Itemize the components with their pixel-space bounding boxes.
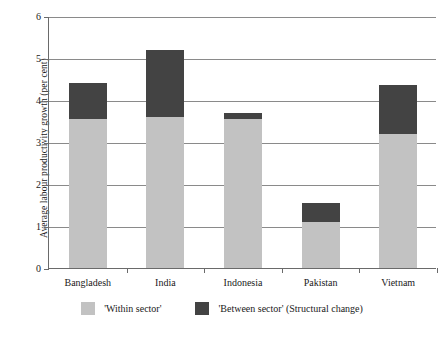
bar-segment-between-sector[interactable]: [379, 85, 417, 133]
y-axis-tick-label: 3: [36, 138, 41, 148]
x-axis-tick-mark: [282, 268, 283, 273]
bar-group[interactable]: [359, 17, 437, 268]
bar-group[interactable]: [282, 17, 360, 268]
legend-item-label: 'Within sector': [104, 304, 161, 314]
chart-container: Average labour productivity growth (per …: [0, 0, 444, 340]
legend-swatch-within-sector: [81, 302, 95, 315]
y-axis-tick-label: 5: [36, 54, 41, 64]
bar-segment-within-sector[interactable]: [146, 117, 184, 268]
bar-segment-between-sector[interactable]: [146, 50, 184, 117]
bar-group[interactable]: [204, 17, 282, 268]
bar-segment-between-sector[interactable]: [224, 113, 262, 119]
bar-segment-within-sector[interactable]: [224, 119, 262, 268]
legend-item[interactable]: 'Within sector': [81, 302, 161, 315]
stacked-bar[interactable]: [69, 83, 107, 268]
bar-group[interactable]: [127, 17, 205, 268]
x-axis-tick-label: Bangladesh: [64, 277, 111, 288]
bar-segment-within-sector[interactable]: [302, 222, 340, 268]
y-axis-tick-label: 0: [36, 264, 41, 274]
stacked-bar[interactable]: [224, 113, 262, 268]
legend-item[interactable]: 'Between sector' (Structural change): [195, 302, 362, 315]
y-axis-tick-label: 6: [36, 12, 41, 22]
y-axis-tick-label: 2: [36, 180, 41, 190]
x-axis-tick-label: Pakistan: [304, 277, 338, 288]
bar-segment-between-sector[interactable]: [69, 83, 107, 119]
bar-segment-between-sector[interactable]: [302, 203, 340, 222]
x-axis-tick-label: Indonesia: [224, 277, 263, 288]
bar-segment-within-sector[interactable]: [69, 119, 107, 268]
plot-area: 0123456 BangladeshIndiaIndonesiaPakistan…: [48, 17, 436, 269]
legend-swatch-between-sector: [195, 302, 209, 315]
x-axis-tick-mark: [437, 268, 438, 273]
bars-layer: [49, 17, 436, 268]
stacked-bar[interactable]: [379, 85, 417, 268]
legend-item-label: 'Between sector' (Structural change): [218, 304, 362, 314]
stacked-bar[interactable]: [302, 203, 340, 268]
y-axis-tick-label: 1: [36, 222, 41, 232]
x-axis-tick-mark: [204, 268, 205, 273]
bar-segment-within-sector[interactable]: [379, 134, 417, 268]
chart-legend: 'Within sector''Between sector' (Structu…: [0, 302, 444, 315]
y-axis-tick-mark: [44, 269, 49, 270]
y-axis-tick-label: 4: [36, 96, 41, 106]
x-axis-tick-mark: [359, 268, 360, 273]
x-axis-tick-label: Vietnam: [381, 277, 415, 288]
x-axis-tick-mark: [127, 268, 128, 273]
bar-group[interactable]: [49, 17, 127, 268]
stacked-bar[interactable]: [146, 50, 184, 268]
x-axis-tick-label: India: [155, 277, 176, 288]
